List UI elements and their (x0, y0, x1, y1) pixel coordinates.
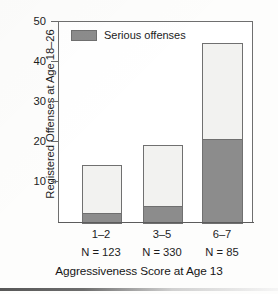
legend-label-serious-offenses: Serious offenses (104, 29, 186, 41)
bar-segment-other-offenses (83, 166, 121, 213)
y-tick-label-20: 20 (20, 136, 46, 147)
bar-segment-serious-offenses (144, 206, 182, 223)
y-tick-label-40: 40 (20, 56, 46, 67)
x-category-n-label: N = 85 (186, 247, 258, 259)
legend-swatch-serious-offenses (71, 30, 97, 41)
bar-group-6-7[interactable] (202, 43, 243, 224)
bar-segment-other-offenses (144, 146, 182, 206)
y-tick-label-50: 50 (20, 16, 46, 27)
legend: Serious offenses (71, 29, 186, 41)
bar-segment-serious-offenses (203, 139, 242, 223)
chart-figure: Registered Offenses at Age 18–26 50 40 3… (0, 0, 278, 294)
bar-segment-other-offenses (203, 44, 242, 139)
bar-segment-serious-offenses (83, 213, 121, 223)
x-category-label: 6–7 (186, 229, 258, 241)
y-tick-label-30: 30 (20, 96, 46, 107)
plot-area: Serious offenses (58, 21, 253, 223)
y-tick-label-10: 10 (20, 176, 46, 187)
bar-group-3-5[interactable] (143, 145, 183, 224)
x-axis-title: Aggressiveness Score at Age 13 (0, 264, 278, 278)
scan-page-edge (0, 288, 278, 291)
bar-group-1-2[interactable] (82, 165, 122, 224)
x-category-group-6-7: 6–7 N = 85 (186, 229, 258, 259)
y-axis-title: Registered Offenses at Age 18–26 (44, 4, 56, 224)
